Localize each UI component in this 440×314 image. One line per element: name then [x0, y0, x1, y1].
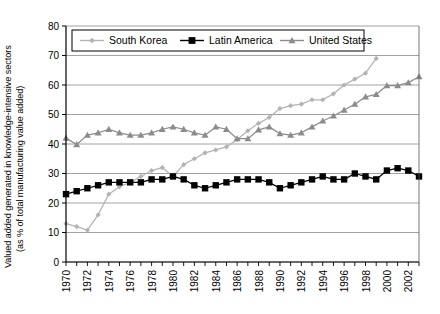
data-point-marker — [287, 182, 293, 188]
x-tick-label: 1986 — [232, 270, 243, 293]
x-tick-label: 1984 — [211, 270, 222, 293]
data-point-marker — [373, 176, 379, 182]
data-point-marker — [299, 102, 304, 107]
data-point-marker — [234, 176, 240, 182]
y-axis-ticks-group: 01020304050607080 — [48, 21, 66, 268]
data-point-marker — [138, 179, 144, 185]
data-point-marker — [138, 174, 143, 179]
data-point-marker — [341, 176, 347, 182]
y-tick-label: 70 — [48, 50, 60, 61]
y-tick-label: 10 — [48, 227, 60, 238]
y-tick-label: 80 — [48, 21, 60, 32]
x-tick-label: 1970 — [61, 270, 72, 293]
x-tick-label: 2000 — [382, 270, 393, 293]
x-tick-label: 1978 — [147, 270, 158, 293]
data-point-marker — [74, 224, 79, 229]
x-tick-label: 1974 — [104, 270, 115, 293]
chart-legend: South KoreaLatin AmericaUnited States — [72, 30, 372, 51]
data-point-marker — [384, 167, 390, 173]
legend-label: South Korea — [109, 34, 168, 46]
y-axis-label: Valued added generated in knowledge-inte… — [0, 0, 46, 280]
data-point-marker — [266, 123, 273, 129]
data-point-marker — [149, 168, 154, 173]
data-point-marker — [223, 179, 229, 185]
y-tick-label: 30 — [48, 168, 60, 179]
data-point-marker — [191, 182, 197, 188]
gridlines-group — [66, 26, 419, 262]
data-point-marker — [105, 126, 112, 132]
data-point-marker — [245, 176, 251, 182]
y-tick-label: 0 — [53, 257, 59, 268]
data-point-marker — [106, 179, 112, 185]
data-point-marker — [362, 173, 368, 179]
x-tick-label: 1990 — [275, 270, 286, 293]
data-point-marker — [202, 185, 208, 191]
y-tick-label: 60 — [48, 80, 60, 91]
y-axis-label-line-1: Valued added generated in knowledge-inte… — [3, 45, 13, 268]
data-point-marker — [352, 170, 358, 176]
data-point-marker — [180, 176, 186, 182]
data-point-marker — [352, 77, 357, 82]
line-chart-plot: 01020304050607080 1970197219741976197819… — [0, 0, 440, 314]
data-point-marker — [213, 147, 218, 152]
series-latin-america — [63, 165, 422, 197]
data-point-marker — [95, 182, 101, 188]
x-tick-label: 1996 — [339, 270, 350, 293]
x-axis-ticks-group: 1970197219741976197819801982198419861988… — [61, 262, 419, 292]
data-point-marker — [189, 37, 196, 44]
data-point-marker — [116, 179, 122, 185]
x-tick-label: 1994 — [318, 270, 329, 293]
legend-label: United States — [309, 34, 372, 46]
x-tick-label: 1988 — [254, 270, 265, 293]
data-point-marker — [73, 188, 79, 194]
data-point-marker — [266, 179, 272, 185]
series-united-states — [63, 73, 423, 147]
data-point-marker — [255, 176, 261, 182]
data-point-marker — [170, 173, 176, 179]
data-point-marker — [298, 129, 305, 135]
x-tick-label: 1998 — [361, 270, 372, 293]
data-point-marker — [319, 117, 326, 123]
data-point-marker — [148, 176, 154, 182]
chart-container: Valued added generated in knowledge-inte… — [0, 0, 440, 314]
x-tick-label: 1972 — [82, 270, 93, 293]
data-point-marker — [84, 185, 90, 191]
data-point-marker — [320, 173, 326, 179]
data-point-marker — [276, 130, 283, 136]
data-point-marker — [405, 79, 412, 85]
data-point-marker — [394, 165, 400, 171]
data-point-marker — [351, 101, 358, 107]
data-point-marker — [320, 97, 325, 102]
data-point-marker — [298, 179, 304, 185]
data-point-marker — [405, 167, 411, 173]
x-tick-label: 1982 — [189, 270, 200, 293]
data-point-marker — [309, 123, 316, 129]
x-tick-label: 1992 — [296, 270, 307, 293]
x-tick-label: 2002 — [403, 270, 414, 293]
data-point-marker — [330, 112, 337, 118]
y-tick-label: 20 — [48, 198, 60, 209]
data-point-marker — [212, 123, 219, 129]
y-tick-label: 40 — [48, 139, 60, 150]
data-point-marker — [202, 150, 207, 155]
data-point-marker — [288, 103, 293, 108]
data-point-marker — [127, 179, 133, 185]
data-point-marker — [341, 107, 348, 113]
data-point-marker — [213, 182, 219, 188]
data-point-marker — [192, 156, 197, 161]
data-point-marker — [169, 123, 176, 129]
data-point-marker — [309, 97, 314, 102]
legend-label: Latin America — [209, 34, 273, 46]
y-tick-label: 50 — [48, 109, 60, 120]
data-point-marker — [330, 176, 336, 182]
y-axis-label-line-2: (as % of total manufacturing value added… — [15, 86, 25, 252]
data-point-marker — [277, 185, 283, 191]
x-tick-label: 1976 — [125, 270, 136, 293]
data-point-marker — [309, 176, 315, 182]
data-point-marker — [159, 176, 165, 182]
x-tick-label: 1980 — [168, 270, 179, 293]
